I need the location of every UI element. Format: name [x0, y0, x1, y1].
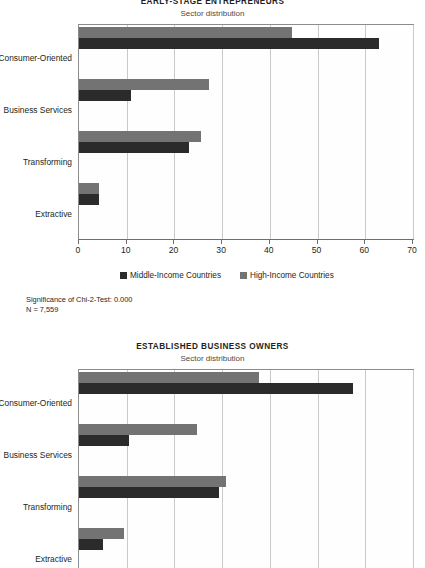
panel1-subtitle: Sector distribution: [0, 8, 425, 19]
x-tick-label-50: 50: [312, 245, 322, 255]
bar-business-services-middle-income-countries: [79, 435, 129, 446]
bar-row-transforming: [79, 474, 413, 526]
x-tick-20: [173, 240, 174, 244]
x-tick-40: [269, 240, 270, 244]
chart-panel-established-owners: ESTABLISHED BUSINESS OWNERS Sector distr…: [0, 330, 425, 568]
panel2-subtitle: Sector distribution: [0, 353, 425, 364]
bar-row-extractive: [79, 181, 413, 233]
bar-row-extractive: [79, 526, 413, 568]
panel2-plot-area: [78, 369, 414, 568]
bar-consumer-oriented-high-income-countries: [79, 27, 292, 38]
bar-extractive-high-income-countries: [79, 183, 99, 194]
bar-business-services-high-income-countries: [79, 424, 197, 435]
bar-extractive-middle-income-countries: [79, 194, 99, 205]
panel2-bar-rows: [79, 370, 413, 568]
x-tick-60: [364, 240, 365, 244]
gridline-70: [413, 370, 414, 568]
bar-row-business-services: [79, 422, 413, 474]
footnote-sample-size: N = 7,559: [26, 305, 132, 315]
panel1-footnote: Significance of Chi-2-Test: 0.000 N = 7,…: [26, 295, 132, 314]
x-tick-label-10: 10: [121, 245, 131, 255]
bar-row-business-services: [79, 77, 413, 129]
panel2-title: ESTABLISHED BUSINESS OWNERS: [0, 342, 425, 352]
bar-row-consumer-oriented: [79, 370, 413, 422]
bar-transforming-high-income-countries: [79, 476, 226, 487]
legend-swatch-middle-income: [120, 272, 127, 279]
x-tick-0: [78, 240, 79, 244]
x-tick-30: [221, 240, 222, 244]
legend-item-middle-income: Middle-Income Countries: [120, 271, 221, 280]
panel1-legend: Middle-Income Countries High-Income Coun…: [0, 271, 425, 283]
bar-transforming-middle-income-countries: [79, 487, 219, 498]
x-tick-label-0: 0: [76, 245, 81, 255]
footnote-significance: Significance of Chi-2-Test: 0.000: [26, 295, 132, 305]
bar-business-services-high-income-countries: [79, 79, 209, 90]
x-tick-label-30: 30: [216, 245, 226, 255]
bar-transforming-middle-income-countries: [79, 142, 189, 153]
x-tick-label-20: 20: [169, 245, 179, 255]
panel1-x-axis: 010203040506070: [78, 240, 412, 260]
x-tick-label-70: 70: [407, 245, 417, 255]
gridline-70: [413, 25, 414, 239]
chart-panel-early-stage: EARLY-STAGE ENTREPRENEURS Sector distrib…: [0, 0, 425, 330]
legend-label-high-income: High-Income Countries: [250, 271, 334, 280]
chart-page: EARLY-STAGE ENTREPRENEURS Sector distrib…: [0, 0, 425, 568]
x-tick-10: [126, 240, 127, 244]
bar-row-transforming: [79, 129, 413, 181]
legend-label-middle-income: Middle-Income Countries: [130, 271, 221, 280]
bar-business-services-middle-income-countries: [79, 90, 131, 101]
x-tick-50: [317, 240, 318, 244]
x-tick-70: [412, 240, 413, 244]
x-tick-label-60: 60: [360, 245, 370, 255]
bar-consumer-oriented-middle-income-countries: [79, 383, 353, 394]
panel1-plot-area: [78, 24, 414, 240]
bar-extractive-middle-income-countries: [79, 539, 103, 550]
bar-row-consumer-oriented: [79, 25, 413, 77]
panel1-title: EARLY-STAGE ENTREPRENEURS: [0, 0, 425, 7]
x-tick-label-40: 40: [264, 245, 274, 255]
legend-item-high-income: High-Income Countries: [240, 271, 334, 280]
bar-extractive-high-income-countries: [79, 528, 124, 539]
bar-transforming-high-income-countries: [79, 131, 201, 142]
bar-consumer-oriented-high-income-countries: [79, 372, 259, 383]
legend-swatch-high-income: [240, 272, 247, 279]
bar-consumer-oriented-middle-income-countries: [79, 38, 379, 49]
panel1-bar-rows: [79, 25, 413, 233]
